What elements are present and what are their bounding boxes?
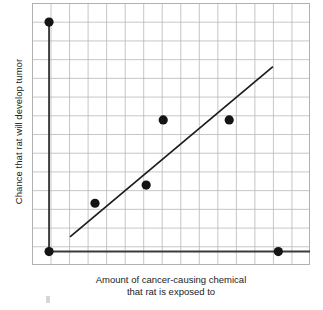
- data-point: [90, 199, 99, 208]
- grid-lines: [32, 3, 310, 265]
- trend-line: [70, 67, 273, 237]
- data-point: [44, 247, 53, 256]
- x-axis-label-line-2: that rat is exposed to: [32, 286, 310, 298]
- plot-canvas: [32, 3, 310, 265]
- data-points: [44, 17, 282, 256]
- data-point: [44, 17, 53, 26]
- plot-frame: [33, 4, 310, 265]
- data-point: [274, 247, 283, 256]
- page-artifact-mark: [46, 296, 50, 303]
- x-axis-label-line-1: Amount of cancer-causing chemical: [32, 274, 310, 286]
- line-of-best-fit: [70, 67, 273, 237]
- plot-area: [32, 3, 310, 265]
- data-point: [142, 180, 151, 189]
- scatter-plot-figure: Chance that rat will develop tumor Amoun…: [0, 0, 323, 310]
- data-point: [225, 115, 234, 124]
- data-point: [159, 115, 168, 124]
- y-axis-label: Chance that rat will develop tumor: [13, 42, 24, 222]
- x-axis-label: Amount of cancer-causing chemical that r…: [32, 274, 310, 298]
